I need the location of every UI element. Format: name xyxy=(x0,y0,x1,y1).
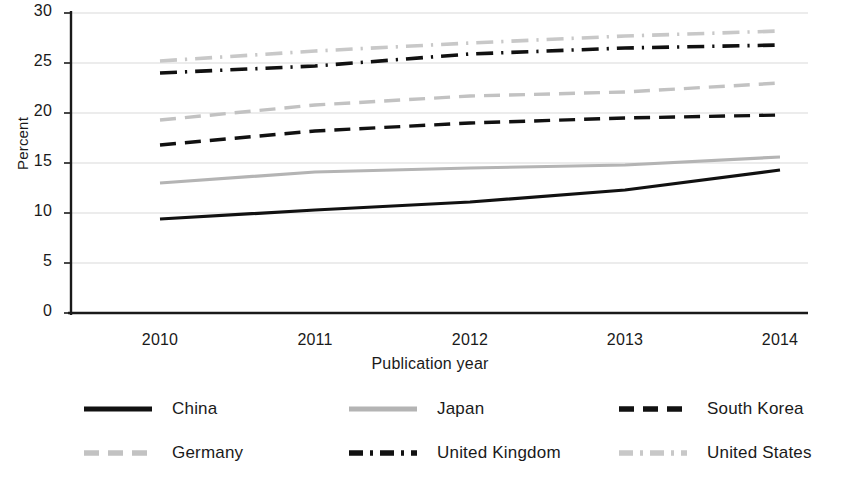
legend-line-icon-japan xyxy=(349,401,417,417)
x-tick-label: 2011 xyxy=(280,331,350,349)
series-line-south-korea xyxy=(160,115,780,145)
legend-row-2: Germany United Kingdom United States xyxy=(84,436,829,470)
legend-label: Japan xyxy=(437,399,484,419)
legend-item-japan: Japan xyxy=(349,392,619,426)
x-axis-title: Publication year xyxy=(290,355,570,373)
legend-line-icon-china xyxy=(84,401,152,417)
line-chart: Percent Publication year 051015202530 20… xyxy=(0,0,853,477)
y-tick-label: 10 xyxy=(8,202,52,220)
gridlines xyxy=(71,13,808,263)
legend-line-icon-germany xyxy=(84,445,152,461)
series-line-united-kingdom xyxy=(160,45,780,73)
legend-item-china: China xyxy=(84,392,349,426)
legend-line-icon-united-states xyxy=(619,445,687,461)
legend-line-icon-south-korea xyxy=(619,401,687,417)
chart-legend: China Japan South Korea Germany United K… xyxy=(84,392,829,474)
x-tick-label: 2014 xyxy=(745,331,815,349)
legend-item-south-korea: South Korea xyxy=(619,392,829,426)
x-tick-label: 2012 xyxy=(435,331,505,349)
x-tick-label: 2013 xyxy=(590,331,660,349)
y-tick-label: 0 xyxy=(8,302,52,320)
series-line-japan xyxy=(160,157,780,183)
legend-label: Germany xyxy=(172,443,243,463)
legend-row-1: China Japan South Korea xyxy=(84,392,829,426)
legend-label: United Kingdom xyxy=(437,443,561,463)
legend-line-icon-united-kingdom xyxy=(349,445,417,461)
series-lines xyxy=(160,31,780,219)
series-line-united-states xyxy=(160,31,780,61)
y-tick-label: 25 xyxy=(8,52,52,70)
y-tick-label: 5 xyxy=(8,252,52,270)
y-tick-label: 15 xyxy=(8,152,52,170)
legend-item-united-states: United States xyxy=(619,436,829,470)
legend-item-united-kingdom: United Kingdom xyxy=(349,436,619,470)
legend-item-germany: Germany xyxy=(84,436,349,470)
legend-label: South Korea xyxy=(707,399,804,419)
x-tick-label: 2010 xyxy=(125,331,195,349)
series-line-germany xyxy=(160,83,780,120)
legend-label: United States xyxy=(707,443,812,463)
y-tick-label: 30 xyxy=(8,2,52,20)
y-tick-label: 20 xyxy=(8,102,52,120)
legend-label: China xyxy=(172,399,217,419)
